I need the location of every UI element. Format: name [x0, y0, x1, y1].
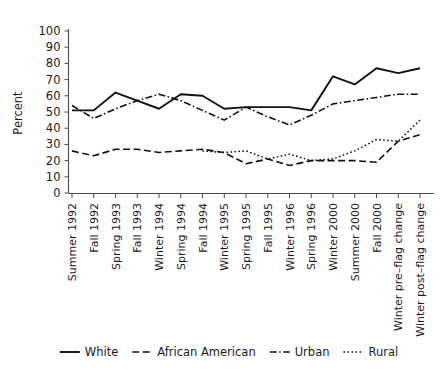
y-axis-ticks: 0102030405060708090100 — [39, 24, 69, 200]
x-tick-label: Spring 1993 — [110, 203, 123, 270]
legend-label-rural: Rural — [368, 345, 398, 359]
x-tick-label: Winter 1995 — [218, 203, 231, 271]
x-tick-label: Winter 1996 — [284, 203, 297, 271]
x-tick-label: Winter 2000 — [327, 203, 340, 271]
y-tick-label: 10 — [46, 170, 61, 184]
series-line-white — [72, 68, 420, 110]
x-tick-label: Fall 1994 — [197, 203, 210, 253]
legend-label-urban: Urban — [295, 345, 330, 359]
x-tick-label: Winter 1994 — [153, 203, 166, 271]
y-axis-label-group: Percent — [11, 91, 25, 135]
y-tick-label: 0 — [53, 186, 60, 200]
y-tick-label: 70 — [46, 73, 61, 87]
y-tick-label: 50 — [46, 105, 61, 119]
x-tick-label: Winter post–flag change — [414, 203, 427, 337]
x-tick-label: Fall 1993 — [131, 203, 144, 253]
chart-legend: WhiteAfrican AmericanUrbanRural — [60, 345, 398, 359]
series-line-african-american — [72, 135, 420, 166]
y-tick-label: 80 — [46, 56, 61, 70]
x-tick-label: Fall 1992 — [88, 203, 101, 253]
x-tick-label: Spring 1996 — [305, 203, 318, 270]
y-tick-label: 60 — [46, 89, 61, 103]
y-tick-label: 40 — [46, 121, 61, 135]
y-tick-label: 20 — [46, 154, 61, 168]
x-tick-label: Fall 1995 — [262, 203, 275, 253]
y-tick-label: 100 — [39, 24, 61, 38]
chart-container: Percent 0102030405060708090100 Summer 19… — [0, 0, 446, 379]
series-line-rural — [203, 120, 421, 161]
line-chart: Percent 0102030405060708090100 Summer 19… — [0, 0, 446, 379]
x-tick-label: Fall 2000 — [371, 203, 384, 253]
x-tick-label: Spring 1994 — [175, 203, 188, 270]
x-tick-label: Winter pre–flag change — [392, 203, 405, 331]
x-tick-label: Summer 2000 — [349, 203, 362, 281]
y-tick-label: 90 — [46, 40, 61, 54]
legend-label-african-american: African American — [157, 345, 255, 359]
x-axis-tick-labels: Summer 1992Fall 1992Spring 1993Fall 1993… — [66, 203, 427, 337]
x-tick-label: Spring 1995 — [240, 203, 253, 270]
series-line-urban — [72, 94, 420, 125]
data-series-group — [72, 68, 420, 165]
y-axis-title: Percent — [11, 91, 25, 135]
x-tick-label: Summer 1992 — [66, 203, 79, 281]
y-tick-label: 30 — [46, 137, 61, 151]
legend-label-white: White — [85, 345, 118, 359]
